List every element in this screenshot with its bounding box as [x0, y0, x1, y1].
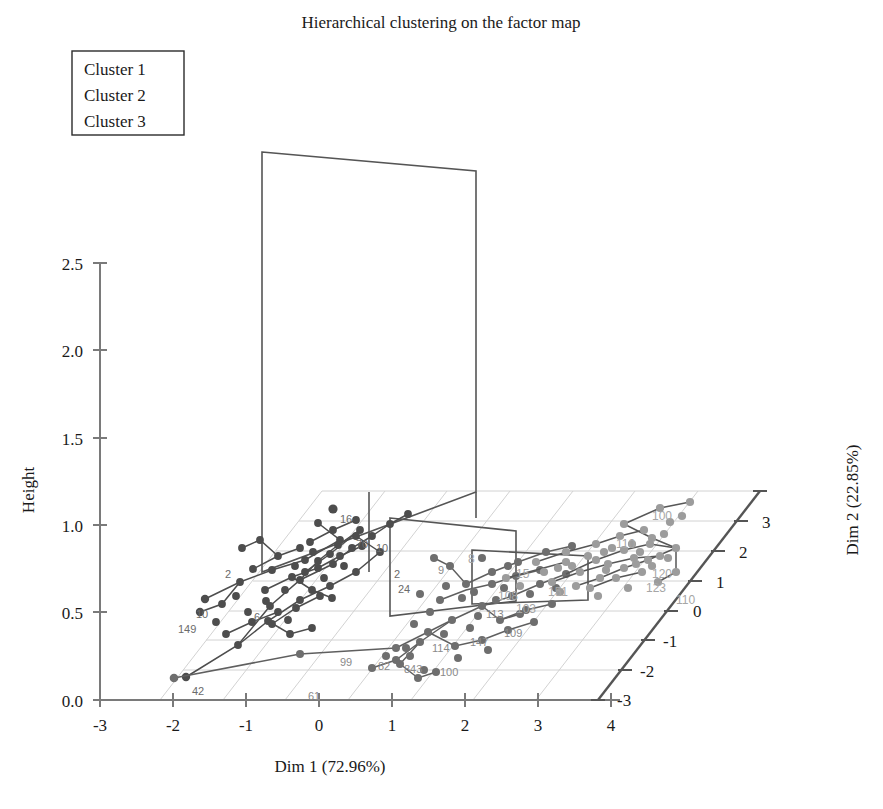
y-axis-label: Height — [19, 467, 38, 514]
point-label-114: 114 — [432, 642, 450, 654]
point-label-70: 70 — [356, 538, 368, 550]
point-label-10b: 10 — [196, 608, 208, 620]
point-label-10: 10 — [376, 542, 388, 554]
z-axis-label: Dim 2 (22.85%) — [843, 445, 862, 556]
point-label-108: 108 — [498, 589, 518, 603]
point-label-82: 82 — [378, 660, 390, 672]
z-tick-5: 2 — [739, 543, 748, 562]
point-label-113: 113 — [486, 608, 504, 620]
point-label-100b: 100 — [652, 509, 672, 523]
point-label-8: 8 — [468, 552, 475, 566]
point-label-6: 6 — [254, 611, 260, 623]
x-tick-2: -1 — [239, 716, 253, 735]
x-tick-1: -2 — [166, 716, 180, 735]
y-tick-3: 1.5 — [62, 430, 83, 449]
x-tick-7: 4 — [607, 716, 616, 735]
point-label-109: 109 — [504, 627, 522, 639]
factor-map-svg: Hierarchical clustering on the factor ma… — [0, 0, 883, 809]
z-tick-2: -1 — [663, 632, 677, 651]
point-label-120: 120 — [652, 567, 672, 581]
y-tick-1: 0.5 — [62, 604, 83, 623]
z-tick-4: 1 — [716, 573, 725, 592]
point-label-16: 16 — [340, 513, 352, 525]
point-label-9: 9 — [438, 564, 444, 576]
z-tick-6: 3 — [762, 513, 771, 532]
point-label-99: 99 — [340, 656, 352, 668]
point-label-61: 61 — [308, 690, 320, 702]
point-label-110b: 110 — [676, 593, 695, 607]
y-tick-4: 2.0 — [62, 342, 83, 361]
chart-canvas: Hierarchical clustering on the factor ma… — [0, 0, 883, 809]
page-title: Hierarchical clustering on the factor ma… — [302, 13, 581, 32]
point-label-151: 151 — [548, 585, 568, 599]
x-axis-label: Dim 1 (72.96%) — [275, 757, 386, 776]
point-label-2a: 2 — [225, 568, 231, 580]
point-label-2b: 2 — [394, 568, 400, 580]
y-tick-2: 1.0 — [62, 517, 83, 536]
x-tick-5: 2 — [461, 716, 470, 735]
legend-item-cluster-2[interactable]: Cluster 2 — [84, 86, 146, 105]
point-label-100: 100 — [440, 666, 458, 678]
z-tick-0: -3 — [617, 691, 631, 710]
legend-item-cluster-3[interactable]: Cluster 3 — [84, 112, 146, 131]
x-tick-6: 3 — [534, 716, 543, 735]
x-tick-3: 0 — [315, 716, 324, 735]
x-tick-0: -3 — [93, 716, 107, 735]
y-tick-5: 2.5 — [62, 255, 83, 274]
point-label-123: 123 — [646, 581, 666, 595]
point-label-147: 147 — [470, 636, 488, 648]
legend: Cluster 1 Cluster 2 Cluster 3 — [72, 51, 184, 135]
point-label-15: 15 — [516, 567, 530, 581]
x-tick-4: 1 — [388, 716, 397, 735]
point-label-149: 149 — [178, 623, 196, 635]
point-label-42: 42 — [192, 685, 204, 697]
point-label-110a: 110 — [616, 537, 635, 551]
y-tick-0: 0.0 — [62, 692, 83, 711]
legend-item-cluster-1[interactable]: Cluster 1 — [84, 60, 146, 79]
point-label-843: 843 — [404, 663, 422, 675]
point-label-24: 24 — [398, 583, 410, 595]
point-label-103: 103 — [516, 602, 536, 616]
z-tick-1: -2 — [640, 662, 654, 681]
